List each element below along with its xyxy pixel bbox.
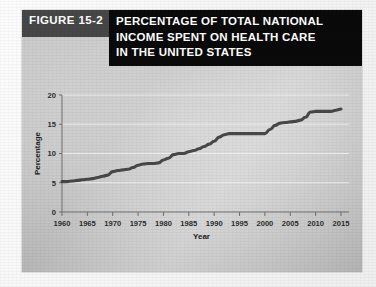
figure-title-box: PERCENTAGE OF TOTAL NATIONAL INCOME SPEN… xyxy=(109,10,362,66)
figure-root: FIGURE 15-2 PERCENTAGE OF TOTAL NATIONAL… xyxy=(0,0,376,287)
figure-title-line-3: IN THE UNITED STATES xyxy=(116,45,354,61)
figure-header: FIGURE 15-2 PERCENTAGE OF TOTAL NATIONAL… xyxy=(22,10,362,70)
figure-title-line-2: INCOME SPENT ON HEALTH CARE xyxy=(116,30,354,46)
figure-title-line-1: PERCENTAGE OF TOTAL NATIONAL xyxy=(116,14,354,30)
figure-number-tab: FIGURE 15-2 xyxy=(22,10,109,37)
